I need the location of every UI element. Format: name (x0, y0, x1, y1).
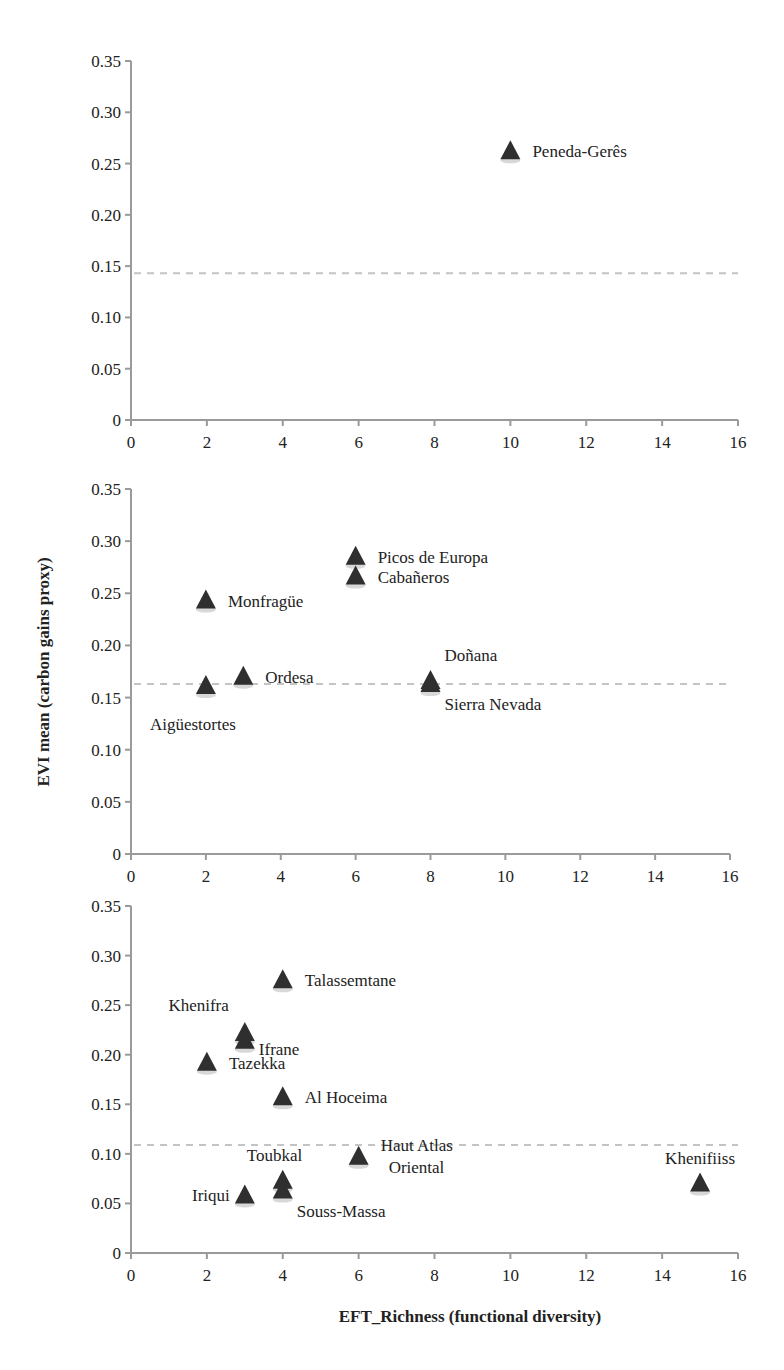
x-tick-label: 8 (426, 867, 435, 886)
y-tick-label: 0.30 (91, 532, 121, 551)
y-tick-label: 0.10 (91, 741, 121, 760)
x-tick-label: 16 (730, 1266, 747, 1285)
y-tick-label: 0 (113, 1244, 122, 1263)
data-point: Al Hoceima (273, 1086, 388, 1109)
y-tick-label: 0.30 (91, 103, 121, 122)
x-tick-label: 2 (202, 867, 211, 886)
x-tick-label: 10 (502, 433, 519, 452)
x-tick-label: 8 (430, 1266, 439, 1285)
data-point: Iriqui (192, 1184, 255, 1207)
y-tick-label: 0.05 (91, 360, 121, 379)
panel-spain: 00.050.100.150.200.250.300.3502468101214… (91, 480, 738, 886)
data-point: Khenifiiss (665, 1149, 735, 1196)
y-tick-label: 0.25 (91, 584, 121, 603)
x-tick-label: 14 (654, 1266, 672, 1285)
point-label: Monfragüe (228, 592, 304, 611)
x-tick-label: 12 (572, 867, 589, 886)
x-tick-label: 6 (351, 867, 360, 886)
point-label: Ordesa (265, 668, 314, 687)
data-point: Picos de Europa (346, 546, 489, 569)
triangle-marker-icon (273, 1086, 293, 1105)
x-tick-label: 2 (203, 433, 212, 452)
triangle-marker-icon (421, 673, 441, 692)
triangle-marker-icon (500, 140, 520, 159)
x-tick-label: 0 (127, 1266, 136, 1285)
data-point: Monfragüe (196, 590, 304, 613)
x-tick-label: 4 (279, 1266, 288, 1285)
x-tick-label: 8 (430, 433, 439, 452)
point-label: Cabañeros (378, 568, 450, 587)
triangle-marker-icon (690, 1173, 710, 1192)
point-label: Sierra Nevada (445, 695, 542, 714)
x-tick-label: 6 (354, 433, 363, 452)
y-tick-label: 0.35 (91, 480, 121, 499)
triangle-marker-icon (235, 1184, 255, 1203)
x-tick-label: 10 (497, 867, 514, 886)
axes (131, 61, 738, 420)
y-tick-label: 0.15 (91, 1095, 121, 1114)
x-tick-label: 12 (578, 433, 595, 452)
triangle-marker-icon (233, 666, 253, 685)
y-tick-label: 0.15 (91, 257, 121, 276)
point-label: Tazekka (229, 1054, 286, 1073)
y-tick-label: 0 (113, 845, 122, 864)
triangle-marker-icon (349, 1146, 369, 1165)
data-point: Sierra Nevada (421, 673, 542, 714)
x-tick-label: 12 (578, 1266, 595, 1285)
data-point: Tazekka (197, 1052, 286, 1075)
x-axis-title: EFT_Richness (functional diversity) (339, 1307, 602, 1326)
x-tick-label: 2 (203, 1266, 212, 1285)
data-point: Ordesa (233, 666, 314, 689)
data-point: Cabañeros (346, 566, 450, 589)
point-label: Al Hoceima (305, 1088, 388, 1107)
x-tick-label: 0 (127, 433, 136, 452)
x-tick-label: 16 (730, 433, 747, 452)
x-tick-label: 0 (127, 867, 136, 886)
triangle-marker-icon (346, 566, 366, 585)
point-label: Iriqui (192, 1186, 230, 1205)
y-tick-label: 0 (113, 411, 122, 430)
y-tick-label: 0.05 (91, 793, 121, 812)
point-label: Souss-Massa (297, 1202, 386, 1221)
x-tick-label: 10 (502, 1266, 519, 1285)
point-label: Haut Atlas (381, 1136, 453, 1155)
y-tick-label: 0.20 (91, 206, 121, 225)
data-point: Haut AtlasOriental (349, 1136, 453, 1177)
panel-morocco: 00.050.100.150.200.250.300.3502468101214… (91, 897, 746, 1285)
data-point: Talassemtane (273, 969, 396, 992)
y-tick-label: 0.20 (91, 636, 121, 655)
x-tick-label: 6 (354, 1266, 363, 1285)
triangle-marker-icon (197, 1052, 217, 1071)
data-point: Toubkal (247, 1146, 303, 1193)
triangle-marker-icon (196, 590, 216, 609)
point-label: Khenifra (168, 996, 229, 1015)
y-tick-label: 0.20 (91, 1046, 121, 1065)
x-tick-label: 14 (654, 433, 672, 452)
panel-portugal: 00.050.100.150.200.250.300.3502468101214… (91, 52, 746, 452)
y-tick-label: 0.35 (91, 52, 121, 71)
point-label: Toubkal (247, 1146, 303, 1165)
x-tick-label: 4 (279, 433, 288, 452)
point-label: Oriental (389, 1158, 445, 1177)
point-label: Doñana (445, 646, 498, 665)
y-tick-label: 0.10 (91, 1145, 121, 1164)
y-tick-label: 0.25 (91, 996, 121, 1015)
y-axis-title: EVI mean (carbon gains proxy) (34, 557, 53, 786)
y-tick-label: 0.05 (91, 1194, 121, 1213)
data-point: Peneda-Gerês (500, 140, 626, 163)
triangle-marker-icon (346, 546, 366, 565)
point-label: Aigüestortes (150, 715, 236, 734)
y-tick-label: 0.30 (91, 947, 121, 966)
x-tick-label: 14 (647, 867, 665, 886)
point-label: Picos de Europa (378, 548, 489, 567)
y-tick-label: 0.25 (91, 155, 121, 174)
figure: 00.050.100.150.200.250.300.3502468101214… (0, 0, 784, 1370)
y-tick-label: 0.35 (91, 897, 121, 916)
point-label: Peneda-Gerês (532, 142, 626, 161)
y-tick-label: 0.10 (91, 308, 121, 327)
point-label: Khenifiiss (665, 1149, 735, 1168)
x-tick-label: 16 (722, 867, 739, 886)
triangle-marker-icon (273, 969, 293, 988)
point-label: Talassemtane (305, 971, 396, 990)
x-tick-label: 4 (277, 867, 286, 886)
